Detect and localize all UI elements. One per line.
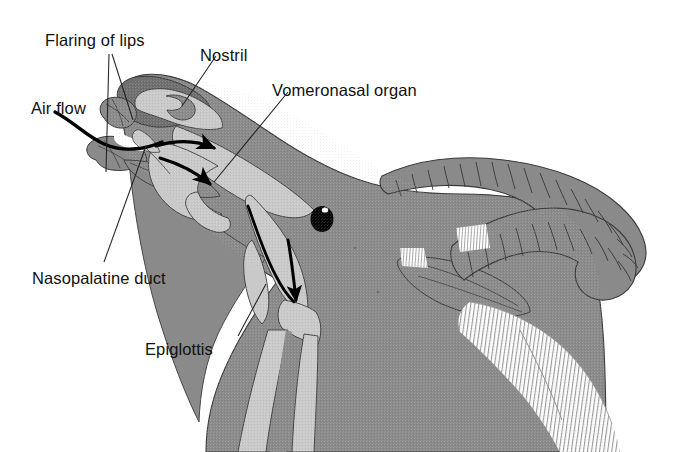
anatomical-figure: Flaring of lips Nostril Vomeronasal orga… bbox=[0, 0, 674, 452]
label-epiglottis: Epiglottis bbox=[145, 341, 213, 358]
halftone-overlay bbox=[0, 0, 674, 452]
goat-head-diagram bbox=[0, 0, 674, 452]
label-nasopalatine-duct: Nasopalatine duct bbox=[32, 270, 166, 287]
label-air-flow: Air flow bbox=[31, 100, 86, 117]
label-vomeronasal-organ: Vomeronasal organ bbox=[272, 82, 417, 99]
label-flaring-of-lips: Flaring of lips bbox=[45, 32, 145, 49]
label-nostril: Nostril bbox=[200, 47, 247, 64]
